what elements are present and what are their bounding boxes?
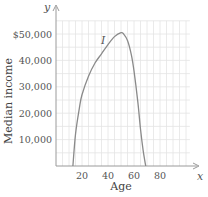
y-axis-label: Median income xyxy=(2,58,15,144)
x-tick-label: 20 xyxy=(76,170,88,181)
grid xyxy=(56,21,190,166)
income-curve xyxy=(73,33,146,166)
y-tick-label: 20,000 xyxy=(19,108,52,119)
income-chart: 10,00020,00030,00040,000$50,000 20406080… xyxy=(0,0,208,197)
y-axis-symbol: y xyxy=(43,1,51,14)
y-tick-label: 10,000 xyxy=(19,134,52,145)
x-tick-label: 80 xyxy=(154,170,166,181)
x-axis-symbol: x xyxy=(197,170,204,183)
y-tick-label: $50,000 xyxy=(13,29,52,40)
y-tick-label: 30,000 xyxy=(19,81,52,92)
curve-label: I xyxy=(100,34,106,47)
y-tick-label: 40,000 xyxy=(19,55,52,66)
y-tick-labels: 10,00020,00030,00040,000$50,000 xyxy=(13,29,52,146)
x-axis-label: Age xyxy=(109,180,132,193)
